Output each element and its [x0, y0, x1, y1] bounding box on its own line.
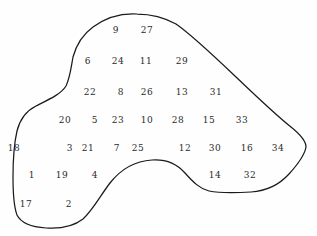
- point-label: 19: [56, 170, 69, 180]
- point-label: 16: [241, 143, 254, 153]
- point-label: 5: [92, 115, 98, 125]
- point-label: 18: [8, 143, 21, 153]
- point-label: 28: [172, 115, 185, 125]
- point-label: 30: [209, 143, 222, 153]
- point-label: 12: [179, 143, 192, 153]
- point-label: 9: [113, 25, 119, 35]
- point-label: 6: [85, 56, 91, 66]
- point-label: 10: [141, 115, 154, 125]
- point-label: 13: [176, 87, 189, 97]
- point-label: 21: [82, 143, 95, 153]
- point-label: 22: [84, 87, 97, 97]
- point-label: 15: [203, 115, 216, 125]
- point-label: 14: [209, 170, 222, 180]
- point-label: 27: [141, 25, 154, 35]
- point-label: 17: [20, 199, 33, 209]
- numbered-region-diagram: 9276241129228261331205231028153318321725…: [0, 0, 317, 236]
- point-label: 20: [59, 115, 72, 125]
- point-label: 8: [118, 87, 124, 97]
- region-outline-path: [13, 14, 306, 228]
- point-label: 3: [67, 143, 73, 153]
- point-label: 34: [272, 143, 285, 153]
- point-label: 2: [66, 199, 72, 209]
- point-label: 4: [92, 170, 98, 180]
- point-label: 25: [132, 143, 145, 153]
- point-label: 29: [176, 56, 189, 66]
- point-label: 11: [140, 56, 153, 66]
- point-label: 31: [210, 87, 223, 97]
- point-label: 1: [29, 170, 35, 180]
- region-outline-svg: [0, 0, 317, 236]
- point-label: 33: [236, 115, 249, 125]
- point-label: 23: [112, 115, 125, 125]
- point-label: 24: [112, 56, 125, 66]
- point-label: 26: [141, 87, 154, 97]
- point-label: 7: [114, 143, 120, 153]
- point-label: 32: [244, 170, 257, 180]
